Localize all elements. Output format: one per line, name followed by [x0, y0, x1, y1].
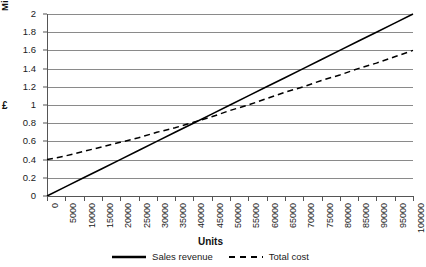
x-axis-tick-mark [358, 196, 359, 201]
x-axis-tick-mark [248, 196, 249, 201]
legend-label-total-cost: Total cost [269, 251, 309, 262]
y-axis-tick-label: 1.2 [23, 82, 36, 92]
x-axis-title: Units [0, 236, 421, 247]
series-sales-revenue [47, 14, 413, 196]
x-axis-tick-mark [102, 196, 103, 201]
y-axis-tick-label: 0.4 [23, 155, 36, 165]
series-layer [47, 14, 413, 196]
x-axis-tick-mark [193, 196, 194, 201]
x-axis-tick-mark [322, 196, 323, 201]
x-axis-tick-mark [139, 196, 140, 201]
y-axis-tick-label: 1.8 [23, 27, 36, 37]
x-axis-tick-label: 50000 [234, 203, 243, 228]
x-axis-tick-label: 90000 [380, 203, 389, 228]
y-axis-tick-labels: 00.20.40.60.811.21.41.61.82 [0, 0, 44, 210]
y-axis-tick-label: 0.8 [23, 118, 36, 128]
x-axis-tick-label: 20000 [124, 203, 133, 228]
legend-label-sales-revenue: Sales revenue [152, 251, 213, 262]
y-axis-tick-label: 0.2 [23, 173, 36, 183]
x-axis-tick-label: 70000 [307, 203, 316, 228]
x-axis-tick-label: 85000 [362, 203, 371, 228]
x-axis-tick-label: 55000 [252, 203, 261, 228]
y-axis-tick-label: 0.6 [23, 137, 36, 147]
x-axis-tick-mark [212, 196, 213, 201]
x-axis-tick-mark [175, 196, 176, 201]
x-axis-tick-label: 10000 [88, 203, 97, 228]
legend-item-total-cost: Total cost [229, 251, 309, 262]
x-axis-tick-label: 35000 [179, 203, 188, 228]
x-axis-tick-label: 45000 [216, 203, 225, 228]
x-axis-tick-label: 75000 [326, 203, 335, 228]
y-axis-tick-label: 1.6 [23, 46, 36, 56]
y-axis-tick-label: 1 [31, 100, 36, 110]
legend-item-sales-revenue: Sales revenue [112, 251, 213, 262]
x-axis-tick-label: 65000 [289, 203, 298, 228]
legend-swatch-dashed-line [229, 252, 263, 262]
x-axis-tick-mark [340, 196, 341, 201]
y-axis-tick-label: 1.4 [23, 64, 36, 74]
x-axis-tick-mark [84, 196, 85, 201]
y-axis-tick-label: 2 [31, 9, 36, 19]
x-axis-tick-mark [65, 196, 66, 201]
x-axis-tick-mark [376, 196, 377, 201]
x-axis-tick-mark [303, 196, 304, 201]
x-axis-tick-label: 15000 [106, 203, 115, 228]
x-axis-tick-mark [395, 196, 396, 201]
x-axis-tick-mark [120, 196, 121, 201]
x-axis-tick-mark [47, 196, 48, 201]
x-axis-tick-mark [157, 196, 158, 201]
x-axis-tick-mark [267, 196, 268, 201]
chart-legend: Sales revenue Total cost [0, 251, 421, 262]
x-axis-tick-label: 80000 [344, 203, 353, 228]
x-axis-tick-label: 95000 [399, 203, 408, 228]
x-axis-tick-label: 25000 [143, 203, 152, 228]
x-axis-tick-label: 30000 [161, 203, 170, 228]
x-axis-tick-mark [285, 196, 286, 201]
x-axis-tick-label: 0 [51, 203, 60, 208]
y-axis-tick-label: 0 [31, 191, 36, 201]
legend-swatch-solid-line [112, 252, 146, 262]
x-axis-tick-mark [413, 196, 414, 201]
x-axis-tick-label: 100000 [417, 203, 426, 233]
x-axis-tick-label: 40000 [197, 203, 206, 228]
x-axis-tick-label: 5000 [69, 203, 78, 223]
x-axis-tick-mark [230, 196, 231, 201]
x-axis-tick-label: 60000 [271, 203, 280, 228]
